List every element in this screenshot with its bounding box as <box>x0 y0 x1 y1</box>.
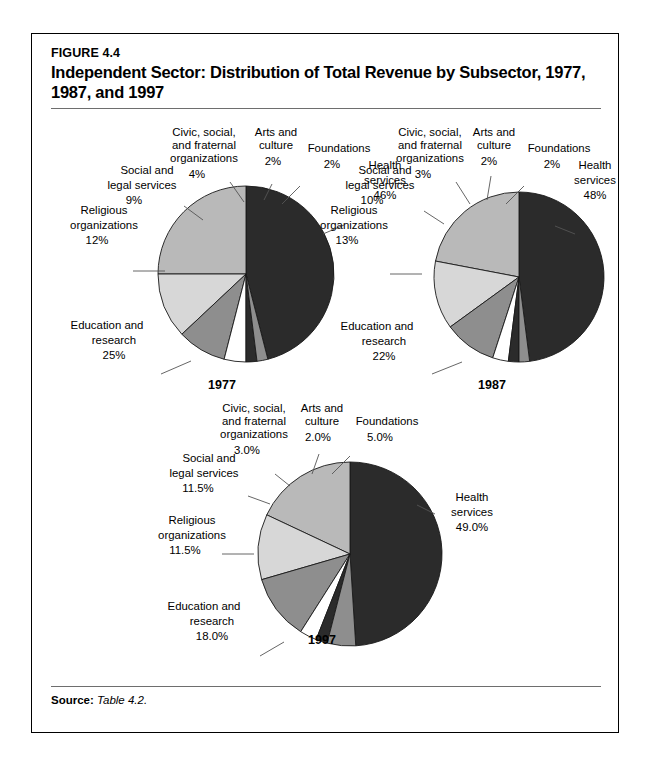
education-line-1: Education and <box>341 320 414 332</box>
religious-pct: 13% <box>336 234 359 246</box>
foundations-line-1: Foundations <box>308 142 371 154</box>
pie-chart-1977: Civic, social, and fraternal organizatio… <box>70 126 406 392</box>
leader-education-1997 <box>260 642 284 656</box>
civic-line-3: organizations <box>170 152 238 164</box>
arts-pct: 2.0% <box>305 431 331 443</box>
civic-pct: 3.0% <box>234 444 260 456</box>
leader-social-1987 <box>424 211 444 224</box>
label-religious-1997: Religious organizations 11.5% <box>158 514 226 556</box>
health-pct: 49.0% <box>456 521 488 533</box>
religious-line-2: organizations <box>320 219 388 231</box>
label-social-1987: Social and legal services 10% <box>345 164 414 206</box>
label-education-1997: Education and research 18.0% <box>168 600 241 642</box>
civic-pct: 4% <box>189 168 205 180</box>
religious-pct: 12% <box>86 234 109 246</box>
label-education-1977: Education and research 25% <box>71 319 144 361</box>
civic-line-1: Civic, social, <box>398 126 461 138</box>
label-health-1997: Health services 49.0% <box>451 491 493 533</box>
social-line-1: Social and <box>120 164 173 176</box>
arts-line-1: Arts and <box>473 126 515 138</box>
leader-civic-1997 <box>275 474 290 486</box>
civic-line-2: and fraternal <box>398 139 462 151</box>
health-line-2: services <box>574 174 616 186</box>
education-line-2: research <box>92 334 136 346</box>
health-line-1: Health <box>456 491 489 503</box>
foundations-pct: 2% <box>544 158 560 170</box>
religious-line-2: organizations <box>158 529 226 541</box>
social-line-1: Social and <box>358 164 411 176</box>
figure-container: FIGURE 4.4 Independent Sector: Distribut… <box>31 33 619 733</box>
pie-year-label-1977: 1977 <box>208 378 236 392</box>
label-religious-1987: Religious organizations 13% <box>320 204 388 246</box>
arts-pct: 2% <box>265 155 281 167</box>
foundations-line-1: Foundations <box>356 415 419 427</box>
foundations-line-1: Foundations <box>528 142 591 154</box>
health-line-2: services <box>451 506 493 518</box>
pie-chart-1987: Civic, social, and fraternal organizatio… <box>320 126 616 392</box>
religious-line-2: organizations <box>70 219 138 231</box>
civic-line-3: organizations <box>220 428 288 440</box>
label-arts-1987: Arts and culture 2% <box>473 126 515 167</box>
label-social-1997: Social and legal services 11.5% <box>169 452 238 494</box>
civic-line-1: Civic, social, <box>222 402 285 414</box>
pie-year-label-1997: 1997 <box>308 633 336 647</box>
civic-line-2: and fraternal <box>222 415 286 427</box>
education-pct: 25% <box>103 349 126 361</box>
education-line-2: research <box>190 615 234 627</box>
arts-line-2: culture <box>259 139 293 151</box>
education-line-1: Education and <box>168 600 241 612</box>
pie-year-label-1987: 1987 <box>478 378 506 392</box>
leader-education-1977 <box>161 361 191 374</box>
label-civic-1997: Civic, social, and fraternal organizatio… <box>220 402 288 456</box>
leader-education-1987 <box>432 362 462 374</box>
arts-line-2: culture <box>477 139 511 151</box>
arts-pct: 2% <box>481 155 497 167</box>
religious-line-1: Religious <box>169 514 216 526</box>
social-line-2: legal services <box>169 467 238 479</box>
slice-education-1977[interactable] <box>158 186 246 274</box>
leader-social-1997 <box>248 496 270 504</box>
source-note: Source: Table 4.2. <box>51 694 147 706</box>
health-pct: 48% <box>584 189 607 201</box>
source-label: Source: <box>51 694 94 706</box>
label-foundations-1997: Foundations 5.0% <box>356 415 419 443</box>
social-pct: 11.5% <box>182 482 213 494</box>
religious-line-1: Religious <box>331 204 378 216</box>
civic-line-1: Civic, social, <box>172 126 235 138</box>
religious-pct: 11.5% <box>169 544 200 556</box>
civic-line-2: and fraternal <box>172 139 236 151</box>
religious-line-1: Religious <box>81 204 128 216</box>
label-civic-1977: Civic, social, and fraternal organizatio… <box>170 126 238 180</box>
civic-pct: 3% <box>415 168 431 180</box>
label-health-1987: Health services 48% <box>574 159 616 201</box>
arts-line-1: Arts and <box>255 126 297 138</box>
arts-line-1: Arts and <box>301 402 343 414</box>
label-social-1977: Social and legal services 9% <box>107 164 176 206</box>
arts-line-2: culture <box>305 415 339 427</box>
health-line-1: Health <box>579 159 612 171</box>
label-arts-1997: Arts and culture 2.0% <box>301 402 343 443</box>
pie-chart-1997: Civic, social, and fraternal organizatio… <box>158 402 493 656</box>
education-pct: 22% <box>373 350 396 362</box>
education-line-2: research <box>362 335 406 347</box>
source-value: Table 4.2. <box>97 694 147 706</box>
social-line-2: legal services <box>345 179 414 191</box>
social-line-2: legal services <box>107 179 176 191</box>
source-divider <box>51 686 601 687</box>
foundations-pct: 5.0% <box>367 431 393 443</box>
foundations-pct: 2% <box>324 158 340 170</box>
slice-health-1987[interactable] <box>519 192 604 361</box>
label-arts-1977: Arts and culture 2% <box>255 126 297 167</box>
pie-charts-area: Civic, social, and fraternal organizatio… <box>32 34 620 734</box>
slice-health-1997[interactable] <box>350 462 442 646</box>
social-pct: 9% <box>126 194 142 206</box>
civic-line-3: organizations <box>396 152 464 164</box>
social-line-1: Social and <box>182 452 235 464</box>
label-education-1987: Education and research 22% <box>341 320 414 362</box>
education-pct: 18.0% <box>196 630 228 642</box>
education-line-1: Education and <box>71 319 144 331</box>
label-religious-1977: Religious organizations 12% <box>70 204 138 246</box>
leader-civic-1987 <box>456 182 470 204</box>
